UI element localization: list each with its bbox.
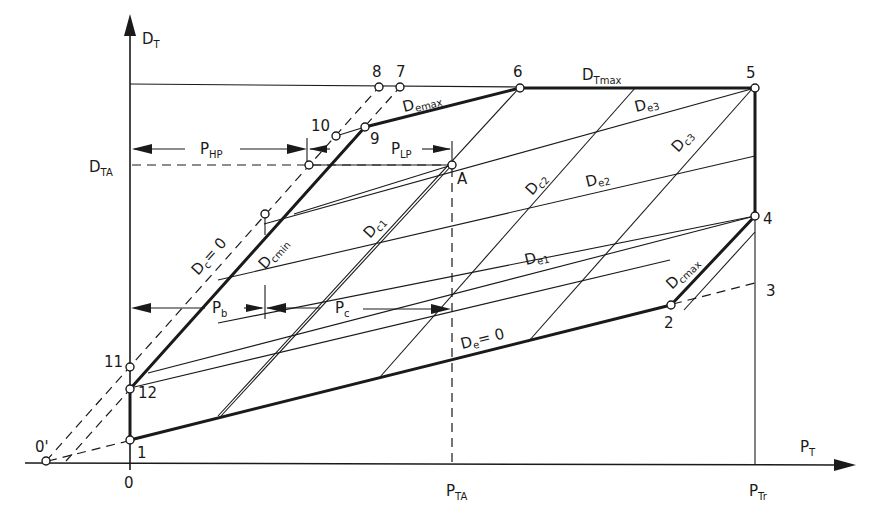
- origin-label: 0: [124, 474, 134, 492]
- point-a-label: A: [457, 170, 468, 188]
- origin-shift-line: [48, 441, 128, 461]
- point-11-marker: [126, 363, 134, 371]
- point-5-marker: [751, 84, 759, 92]
- point-2-marker: [667, 301, 675, 309]
- point-8-label: 8: [372, 63, 382, 81]
- php-arrow-right-icon: [287, 144, 307, 154]
- de2-label: De2: [584, 168, 612, 192]
- point-9-marker: [361, 123, 369, 131]
- dcmax-label: Dcmax: [662, 253, 703, 294]
- point-11-label: 11: [104, 353, 123, 371]
- point-labels: 1 2 3 4 5 6 7 8 9 10 11 12 0' A: [35, 63, 776, 462]
- point-6-marker: [516, 84, 524, 92]
- point-6-label: 6: [513, 63, 523, 81]
- point-7-marker: [396, 83, 404, 91]
- plp-arrow-left-icon: [309, 145, 327, 153]
- point-8-marker: [375, 83, 383, 91]
- ptr-label: PTr: [749, 482, 768, 502]
- point-4-marker: [751, 212, 759, 220]
- point-a-marker: [448, 161, 456, 169]
- point-markers: [42, 83, 759, 465]
- de-line-a-lower: [294, 165, 452, 214]
- pc-label: Pc: [335, 299, 350, 319]
- de-line-2: [218, 156, 755, 280]
- point-2-label: 2: [664, 314, 674, 332]
- reference-lines: [130, 84, 755, 464]
- dc-zero-line: [46, 87, 379, 461]
- dc3-label: Dc3: [668, 126, 698, 156]
- point-3-label: 3: [766, 282, 776, 300]
- y-axis-arrow-icon: [124, 14, 136, 36]
- de3-label: De3: [633, 93, 661, 117]
- point-1-label: 1: [137, 444, 147, 462]
- dtmax-level-line: [130, 84, 520, 87]
- dc-line-2: [380, 87, 636, 377]
- x-axis: [25, 463, 840, 465]
- dcmin-boundary: [130, 127, 365, 389]
- point-dta-dc0-marker: [305, 161, 313, 169]
- line-2-3: [673, 283, 755, 304]
- pb-label: Pb: [212, 299, 227, 319]
- dc-line-1: [218, 87, 520, 416]
- operating-diagram: DT PT 0 DTA DTmax PTA PTr: [0, 0, 873, 525]
- point-5-label: 5: [746, 64, 756, 82]
- x-axis-arrow-icon: [834, 459, 856, 471]
- pta-label: PTA: [446, 482, 467, 502]
- plp-label: PLP: [391, 140, 412, 160]
- dtmax-label: DTmax: [582, 66, 622, 86]
- point-9-label: 9: [370, 130, 380, 148]
- construction-lines: [46, 87, 755, 461]
- point-4-label: 4: [763, 210, 773, 228]
- dc-zero-label: Dc= 0: [188, 234, 232, 279]
- point-10-label: 10: [311, 117, 330, 135]
- php-label: PHP: [200, 140, 223, 160]
- operating-boundary: [130, 88, 755, 440]
- dta-label: DTA: [89, 158, 113, 178]
- pb-arrow-left-icon: [131, 303, 151, 313]
- y-axis-label: DT: [142, 30, 161, 50]
- point-10-marker: [332, 132, 340, 140]
- point-7-label: 7: [396, 63, 406, 81]
- point-12-label: 12: [138, 384, 157, 402]
- point-1-marker: [126, 436, 134, 444]
- php-arrow-left-icon: [132, 144, 152, 154]
- point-0prime-marker: [42, 457, 50, 465]
- dc2-label: Dc2: [522, 169, 552, 199]
- de-zero-label: De= 0: [459, 325, 507, 354]
- dc-line-a: [221, 165, 452, 416]
- dcmax-boundary: [671, 216, 755, 305]
- dc-line-3: [528, 89, 752, 342]
- point-dcmin-dc0-marker: [261, 210, 269, 218]
- de-lines: [130, 88, 755, 388]
- de1-label: De1: [523, 246, 551, 270]
- x-axis-label: PT: [800, 438, 816, 458]
- pb-arrow-right-icon: [246, 304, 264, 312]
- de-zero-boundary: [130, 305, 671, 440]
- point-12-marker: [126, 385, 134, 393]
- plp-arrow-right-icon: [433, 145, 451, 153]
- point-0prime-label: 0': [35, 438, 49, 456]
